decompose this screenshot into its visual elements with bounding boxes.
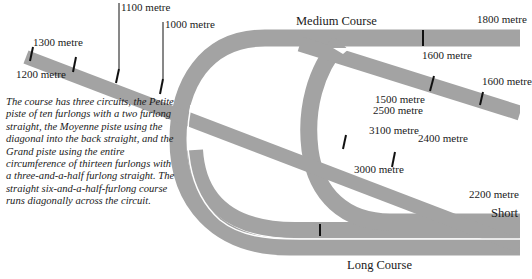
label-1600-top: 1600 metre (422, 49, 472, 61)
label-1300: 1300 metre (33, 36, 83, 48)
short-course-title: Short (491, 207, 518, 219)
label-1600-right: 1600 metre (482, 75, 532, 87)
label-3100: 3100 metre (369, 124, 419, 136)
label-2200: 2200 metre (469, 188, 519, 200)
medium-course-title: Medium Course (296, 15, 377, 27)
label-1100: 1100 metre (121, 1, 170, 13)
course-description: The course has three circuits, the Petit… (6, 96, 178, 208)
label-1800: 1800 metre (477, 13, 527, 25)
label-2500: 2500 metre (373, 104, 423, 116)
label-2400: 2400 metre (418, 132, 468, 144)
label-1200: 1200 metre (16, 68, 66, 80)
long-course-title: Long Course (347, 259, 412, 271)
label-1000: 1000 metre (165, 18, 215, 30)
label-3000: 3000 metre (354, 163, 404, 175)
